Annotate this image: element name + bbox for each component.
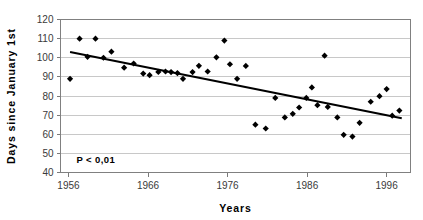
y-axis-title: Days since January 1st bbox=[5, 28, 17, 164]
annotation-p-value: P < 0,01 bbox=[76, 154, 115, 165]
y-axis-tick-label: 80 bbox=[42, 91, 54, 102]
x-axis-tick-label: 1996 bbox=[376, 180, 399, 191]
y-axis-tick-label: 60 bbox=[42, 129, 54, 140]
y-axis-tick-label: 120 bbox=[37, 14, 54, 25]
y-axis-tick-label: 90 bbox=[42, 71, 54, 82]
y-axis-tick-label: 100 bbox=[37, 52, 54, 63]
x-axis-tick-label: 1976 bbox=[216, 180, 239, 191]
chart-container: 4050607080901001101201956196619761986199… bbox=[0, 0, 423, 220]
x-axis-tick-label: 1986 bbox=[296, 180, 319, 191]
y-axis-tick-label: 70 bbox=[42, 110, 54, 121]
x-axis-tick-label: 1956 bbox=[57, 180, 80, 191]
x-axis-tick-label: 1966 bbox=[137, 180, 160, 191]
scatter-plot: 4050607080901001101201956196619761986199… bbox=[0, 0, 423, 220]
y-axis-tick-label: 40 bbox=[42, 167, 54, 178]
y-axis-tick-label: 110 bbox=[38, 33, 54, 44]
y-axis-tick-label: 50 bbox=[42, 148, 54, 159]
x-axis-title: Years bbox=[219, 202, 252, 214]
